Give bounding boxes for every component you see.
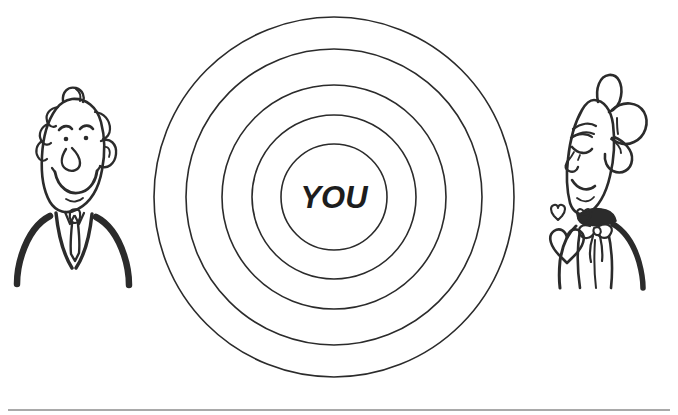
- man-tie-blade: [71, 224, 80, 261]
- woman-eyelash-2: [578, 155, 580, 160]
- man-smile-corner-right: [97, 167, 100, 171]
- man-right-shoulder: [96, 217, 129, 285]
- woman-eyelash-1: [571, 152, 574, 157]
- center-label-you: YOU: [300, 180, 369, 215]
- illustration-svg: YOU: [0, 0, 678, 415]
- illustration-canvas: YOU: [0, 0, 678, 415]
- character-man-left: [17, 88, 129, 285]
- woman-right-shoulder: [613, 224, 643, 288]
- man-head-outline: [42, 99, 104, 212]
- woman-ribbon-tail-left: [590, 236, 593, 262]
- woman-head-outline: [567, 100, 614, 214]
- woman-smile: [572, 180, 595, 189]
- man-chin-crease: [66, 198, 83, 202]
- man-left-shoulder: [17, 216, 50, 284]
- man-eyebrow-right: [80, 126, 93, 129]
- man-eye-left: [64, 137, 69, 142]
- woman-ribbon-tail-right: [600, 236, 602, 261]
- man-nose: [62, 148, 80, 171]
- heart-small-upper-icon: [551, 205, 565, 220]
- man-eye-right: [84, 136, 89, 141]
- woman-ribbon-bow-knot: [593, 227, 600, 235]
- woman-eye-closed: [572, 147, 592, 153]
- woman-chin-line: [577, 197, 594, 201]
- man-smile-corner-left: [52, 168, 55, 172]
- man-smile: [55, 171, 97, 193]
- woman-bodice: [578, 230, 580, 288]
- woman-bodice-right: [608, 231, 612, 288]
- man-eyebrow-left: [59, 126, 72, 130]
- woman-bodice-fold: [594, 240, 596, 288]
- woman-hair-bow-center-tick: [617, 118, 618, 134]
